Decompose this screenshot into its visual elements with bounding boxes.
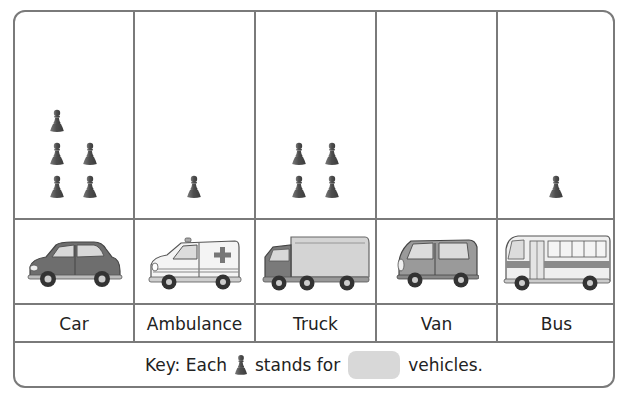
pawn-icon xyxy=(81,142,99,166)
pawn-icon xyxy=(323,142,341,166)
truck-icon xyxy=(261,233,371,293)
key-suffix: vehicles. xyxy=(408,355,483,375)
ambulance-icon xyxy=(147,235,243,291)
pawn-icon xyxy=(323,175,341,199)
bus-picture xyxy=(498,221,615,304)
pawn-icon xyxy=(547,175,565,199)
category-label-bus: Bus xyxy=(498,306,615,342)
van-icon xyxy=(395,237,479,289)
pawn-icon xyxy=(233,354,249,376)
van-picture xyxy=(377,221,496,304)
pictograph-key: Key: Each stands for vehicles. xyxy=(15,344,613,386)
pawn-icon xyxy=(290,142,308,166)
category-label-car: Car xyxy=(15,306,133,342)
pawn-icon xyxy=(290,175,308,199)
ambulance-picture xyxy=(135,221,254,304)
category-label-ambulance: Ambulance xyxy=(135,306,254,342)
key-value-blank[interactable] xyxy=(348,351,400,379)
bus-icon xyxy=(502,233,612,293)
key-prefix: Key: Each xyxy=(145,355,227,375)
pawn-icon xyxy=(48,175,66,199)
car-picture xyxy=(15,221,133,304)
category-label-van: Van xyxy=(377,306,496,342)
key-middle: stands for xyxy=(255,355,340,375)
pawn-icon xyxy=(48,142,66,166)
row-divider xyxy=(13,218,615,220)
pawn-icon xyxy=(81,175,99,199)
category-label-truck: Truck xyxy=(256,306,375,342)
car-icon xyxy=(24,237,124,289)
truck-picture xyxy=(256,221,375,304)
pawn-icon xyxy=(48,109,66,133)
pawn-icon xyxy=(185,175,203,199)
